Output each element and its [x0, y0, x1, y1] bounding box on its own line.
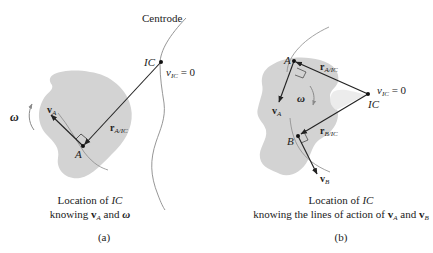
caption-a-line1: Location of IC: [30, 193, 150, 207]
point-a-label: A: [74, 148, 82, 160]
caption-a-line2: knowing vA and ω: [30, 207, 150, 225]
point-a-dot-b: [292, 59, 296, 63]
centrode-curve: [152, 18, 186, 210]
figure-a: Centrode IC vIC = 0 A vA rA/IC ω: [10, 12, 196, 210]
rigid-body-a: [39, 71, 132, 179]
point-a-label-b: A: [283, 54, 291, 66]
figure-b: A B IC vIC = 0 rA/IC rB/IC vA vB ω: [257, 27, 406, 186]
v-ic-label-a: vIC = 0: [166, 66, 196, 80]
centrode-label: Centrode: [142, 12, 182, 24]
caption-b-line2: knowing the lines of action of vA and vB: [249, 207, 433, 225]
ic-label-b: IC: [367, 98, 380, 110]
point-b-dot-b: [296, 134, 300, 138]
ic-label-a: IC: [143, 56, 156, 68]
light-region-b: [330, 90, 366, 110]
caption-b-tag: (b): [249, 230, 433, 244]
caption-a-tag: (a): [30, 230, 150, 244]
v-b-label-b: vB: [320, 173, 330, 186]
point-b-label-b: B: [287, 135, 294, 147]
caption-b: Location of IC knowing the lines of acti…: [249, 193, 433, 244]
v-ic-label-b: vIC = 0: [377, 84, 407, 98]
omega-arrow-a: [29, 104, 34, 130]
omega-label-a: ω: [10, 110, 19, 124]
point-ic-dot: [159, 60, 163, 64]
point-ic-dot-b: [366, 92, 370, 96]
omega-label-b: ω: [297, 92, 305, 104]
caption-b-line1: Location of IC: [249, 193, 433, 207]
caption-a: Location of IC knowing vA and ω (a): [30, 193, 150, 244]
